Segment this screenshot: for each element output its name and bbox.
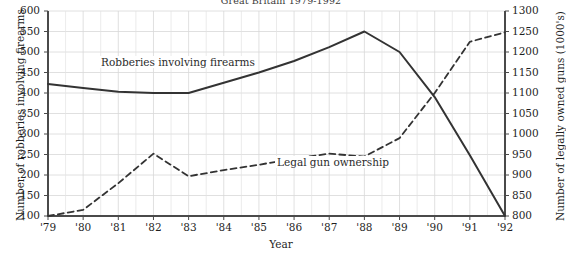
- series-label-robberies: Robberies involving firearms: [99, 56, 257, 68]
- gridlines: [48, 11, 505, 216]
- series-label-gun-ownership: Legal gun ownership: [275, 156, 391, 168]
